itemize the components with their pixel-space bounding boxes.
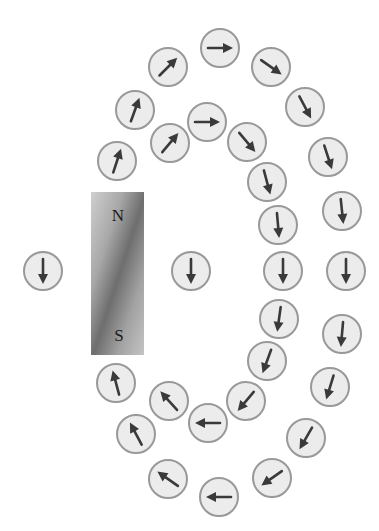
- compass-needles: [24, 29, 365, 516]
- compass: [286, 88, 324, 126]
- magnetic-field-diagram: N S: [0, 0, 379, 531]
- north-pole-label: N: [112, 206, 124, 225]
- compass: [24, 252, 62, 290]
- compass: [98, 142, 136, 180]
- compass: [327, 252, 365, 290]
- compass: [259, 206, 297, 244]
- compass: [151, 124, 189, 162]
- compass: [149, 48, 187, 86]
- compass: [172, 252, 210, 290]
- compass: [97, 364, 135, 402]
- compass: [117, 415, 155, 453]
- compass: [253, 459, 291, 497]
- compass: [228, 123, 266, 161]
- compass: [311, 368, 349, 406]
- compass: [248, 163, 286, 201]
- compass: [188, 103, 226, 141]
- compass: [227, 382, 265, 420]
- south-pole-label: S: [114, 326, 123, 345]
- compass: [150, 382, 188, 420]
- compass: [309, 138, 347, 176]
- compass: [287, 419, 325, 457]
- compass: [189, 404, 227, 442]
- compass: [116, 91, 154, 129]
- compass: [201, 29, 239, 67]
- compass: [323, 315, 361, 353]
- compass: [252, 48, 290, 86]
- compass: [200, 478, 238, 516]
- compass: [149, 460, 187, 498]
- compass: [260, 300, 298, 338]
- compass: [248, 342, 286, 380]
- bar-magnet: N S: [91, 192, 144, 355]
- compass: [264, 252, 302, 290]
- compass: [323, 192, 361, 230]
